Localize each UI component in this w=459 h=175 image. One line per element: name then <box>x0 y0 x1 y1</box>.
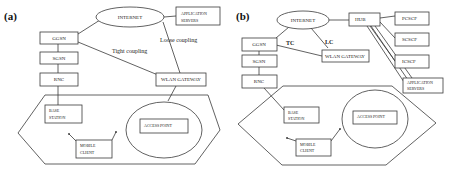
edge-tc <box>276 45 322 56</box>
coupling-diagrams: (a) INTERNET APPLICATION SERVERS GGSN SG… <box>0 0 459 175</box>
mobile-client-label-2: CLIENT <box>80 150 95 155</box>
sgsn-label: SGSN <box>253 59 266 64</box>
icscf-label: ICSCF <box>402 59 416 64</box>
panel-a: (a) INTERNET APPLICATION SERVERS GGSN SG… <box>4 7 220 164</box>
coverage-area-hexagon <box>238 86 436 165</box>
mobile-link-right <box>331 129 340 141</box>
wlan-gateway-label: WLAN GATEWAY <box>325 54 365 59</box>
edge-tight-coupling <box>78 42 158 75</box>
rnc-label: RNC <box>254 79 265 84</box>
hub-label: HUB <box>355 17 366 22</box>
panel-b: (b) INTERNET HUB PCSCF SCSCF ICSCF <box>236 10 443 165</box>
app-servers-label-1: APPLICATION <box>407 80 433 85</box>
rnc-label: RNC <box>54 77 65 82</box>
wlan-gateway-label: WLAN GATEWAY <box>161 77 201 82</box>
access-point-label: ACCESS POINT <box>357 114 385 119</box>
mobile-link-left <box>287 138 296 141</box>
base-station-label-1: BASE <box>49 108 60 113</box>
base-station-label-2: STATION <box>49 115 65 120</box>
edge-hub-pcscf <box>380 16 395 18</box>
loose-coupling-label: Loose coupling <box>160 37 197 43</box>
access-point-label: ACCESS POINT <box>144 123 172 128</box>
ggsn-label: GGSN <box>252 42 266 47</box>
edge-ggsn-internet <box>78 20 100 34</box>
ggsn-label: GGSN <box>52 36 66 41</box>
mobile-link-left <box>69 134 76 141</box>
panel-a-tag: (a) <box>4 10 17 23</box>
app-servers-label-2: SERVERS <box>407 86 424 91</box>
edge-wlan-accesspoint <box>168 86 176 101</box>
sgsn-label: SGSN <box>53 56 66 61</box>
scscf-label: SCSCF <box>402 37 417 42</box>
mobile-client-label-1: MOBILE <box>300 142 316 147</box>
edge-loose-coupling <box>163 22 180 73</box>
edge-lc <box>311 28 328 48</box>
internet-label: INTERNET <box>291 18 315 23</box>
signal-dot-right <box>115 131 117 133</box>
tight-coupling-label: Tight coupling <box>112 48 147 54</box>
signal-dot-left <box>286 137 288 139</box>
app-servers-label-2: SERVERS <box>181 18 198 23</box>
panel-b-tag: (b) <box>236 10 250 23</box>
app-servers-label-1: APPLICATION <box>181 11 207 16</box>
signal-dot-left <box>68 133 70 135</box>
mobile-client-label-1: MOBILE <box>80 143 96 148</box>
lc-label: LC <box>325 39 333 45</box>
pcscf-label: PCSCF <box>402 16 417 21</box>
signal-dot-right <box>339 128 341 130</box>
edge-ggsn-internet <box>276 27 289 38</box>
tc-label: TC <box>286 40 294 46</box>
mobile-client-label-2: CLIENT <box>300 148 315 153</box>
mobile-link-right <box>112 132 116 140</box>
internet-label: INTERNET <box>118 15 142 20</box>
base-station-label-2: STATION <box>288 116 304 121</box>
base-station-label-1: BASE <box>288 110 299 115</box>
edge-internet-appservers <box>164 16 176 17</box>
